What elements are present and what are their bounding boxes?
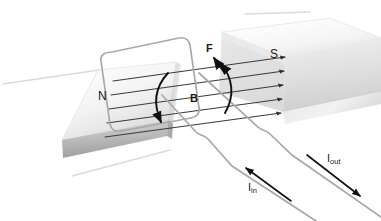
south-pole-label: S <box>270 48 278 60</box>
field-label: B <box>190 93 198 104</box>
south-magnet-block <box>219 18 381 124</box>
physics-diagram-figure: N S F B Iin Iout <box>0 0 381 221</box>
north-magnet-block <box>62 62 181 158</box>
current-in-subscript: in <box>251 186 257 195</box>
current-out-label: Iout <box>327 153 341 164</box>
diagram-canvas <box>0 0 381 221</box>
current-out-subscript: out <box>330 157 340 166</box>
current-in-label: Iin <box>248 182 257 193</box>
force-label: F <box>206 43 213 54</box>
north-pole-label: N <box>98 90 107 102</box>
